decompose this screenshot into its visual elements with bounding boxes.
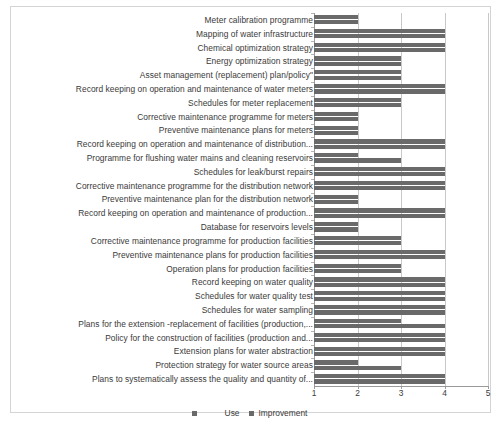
bar-improvement: [314, 62, 401, 66]
bar-rows: Meter calibration programmeMapping of wa…: [0, 13, 499, 386]
row-bars: [314, 27, 494, 41]
bar-use: [314, 208, 445, 212]
bar-use: [314, 374, 445, 378]
x-tickmark-4: [445, 386, 446, 389]
bar-improvement: [314, 379, 445, 383]
x-tickmark-3: [401, 386, 402, 389]
bar-use: [314, 15, 358, 19]
bar-improvement: [314, 310, 445, 314]
x-tick-label-1: 1: [312, 389, 317, 397]
category-label: Operation plans for production facilitie…: [166, 264, 313, 272]
bar-improvement: [314, 352, 445, 356]
chart-row: Preventive maintenance plan for the dist…: [0, 193, 499, 207]
row-bars: [314, 345, 494, 359]
bar-improvement: [314, 158, 401, 162]
bar-improvement: [314, 145, 445, 149]
row-bars: [314, 372, 494, 386]
bar-use: [314, 70, 401, 74]
category-label: Plans to systematically assess the quali…: [92, 375, 313, 383]
bar-use: [314, 29, 445, 33]
category-label: Corrective maintenance programme for met…: [137, 112, 313, 120]
bar-use: [314, 181, 445, 185]
category-label: Record keeping on water quality: [192, 278, 313, 286]
category-label: Asset management (replacement) plan/poli…: [140, 71, 313, 79]
row-bars: [314, 303, 494, 317]
category-label: Programme for flushing water mains and c…: [87, 154, 313, 162]
row-bars: [314, 248, 494, 262]
legend-swatch-icon: [249, 411, 254, 416]
chart-legend: UseImprovement: [0, 409, 499, 417]
bar-improvement: [314, 241, 401, 245]
bar-improvement: [314, 34, 445, 38]
bar-improvement: [314, 103, 401, 107]
category-label: Preventive maintenance plans for product…: [112, 251, 313, 259]
bar-use: [314, 319, 401, 323]
bar-use: [314, 347, 445, 351]
category-label: Corrective maintenance programme for the…: [76, 181, 313, 189]
chart-row: Mapping of water infrastructure: [0, 27, 499, 41]
bar-use: [314, 98, 401, 102]
chart-row: Schedules for leak/burst repairs: [0, 165, 499, 179]
chart-row: Schedules for meter replacement: [0, 96, 499, 110]
bar-improvement: [314, 48, 445, 52]
row-bars: [314, 96, 494, 110]
chart-row: Corrective maintenance programme for the…: [0, 179, 499, 193]
row-bars: [314, 262, 494, 276]
category-label: Schedules for water quality test: [195, 292, 313, 300]
legend-entry-improvement[interactable]: Improvement: [249, 409, 308, 417]
category-label: Extension plans for water abstraction: [174, 347, 313, 355]
bar-improvement: [314, 20, 358, 24]
category-label: Mapping of water infrastructure: [196, 30, 313, 38]
chart-row: Operation plans for production facilitie…: [0, 262, 499, 276]
x-tick-label-3: 3: [399, 389, 404, 397]
bar-improvement: [314, 172, 445, 176]
bar-use: [314, 360, 358, 364]
bar-use: [314, 84, 445, 88]
category-label: Database for reservoirs levels: [201, 223, 313, 231]
bar-use: [314, 43, 445, 47]
category-label: Chemical optimization strategy: [197, 43, 313, 51]
x-tickmark-2: [358, 386, 359, 389]
category-label: Energy optimization strategy: [206, 57, 313, 65]
bar-use: [314, 112, 358, 116]
chart-row: Record keeping on operation and maintena…: [0, 206, 499, 220]
bar-use: [314, 291, 445, 295]
category-label: Preventive maintenance plans for meters: [159, 126, 313, 134]
row-bars: [314, 358, 494, 372]
bar-improvement: [314, 214, 445, 218]
row-bars: [314, 206, 494, 220]
chart-row: Plans for the extension -replacement of …: [0, 317, 499, 331]
row-bars: [314, 124, 494, 138]
row-bars: [314, 275, 494, 289]
chart-row: Extension plans for water abstraction: [0, 345, 499, 359]
chart-row: Meter calibration programme: [0, 13, 499, 27]
chart-row: Preventive maintenance plans for product…: [0, 248, 499, 262]
bar-use: [314, 333, 445, 337]
bar-improvement: [314, 227, 358, 231]
row-bars: [314, 331, 494, 345]
row-bars: [314, 110, 494, 124]
bar-improvement: [314, 255, 445, 259]
chart-row: Energy optimization strategy: [0, 54, 499, 68]
chart-row: Record keeping on operation and maintena…: [0, 82, 499, 96]
category-label: Policy for the construction of facilitie…: [105, 333, 313, 341]
bar-improvement: [314, 338, 445, 342]
chart-row: Schedules for water sampling: [0, 303, 499, 317]
chart-row: Schedules for water quality test: [0, 289, 499, 303]
bar-improvement: [314, 131, 358, 135]
x-tickmark-5: [488, 386, 489, 389]
bar-improvement: [314, 200, 358, 204]
row-bars: [314, 68, 494, 82]
category-label: Corrective maintenance programme for pro…: [91, 237, 313, 245]
row-bars: [314, 289, 494, 303]
row-bars: [314, 41, 494, 55]
x-tick-label-2: 2: [355, 389, 360, 397]
legend-entry-use[interactable]: Use: [192, 409, 240, 417]
category-label: Plans for the extension -replacement of …: [78, 320, 313, 328]
row-bars: [314, 193, 494, 207]
category-label: Schedules for leak/burst repairs: [194, 168, 313, 176]
category-label: Record keeping on operation and maintena…: [78, 209, 313, 217]
category-label: Meter calibration programme: [205, 16, 313, 24]
bar-use: [314, 236, 401, 240]
row-bars: [314, 179, 494, 193]
